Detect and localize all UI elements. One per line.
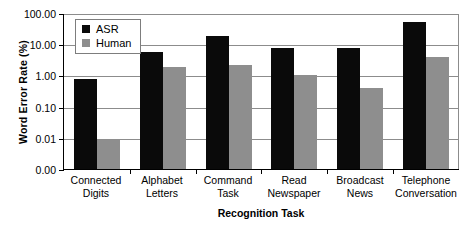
- bar-asr: [271, 48, 294, 169]
- x-axis-tick-label: ReadNewspaper: [261, 174, 327, 206]
- legend-label-asr: ASR: [96, 23, 119, 35]
- x-axis-tick-label: CommandTask: [195, 174, 261, 206]
- x-axis-tick-label: ConnectedDigits: [63, 174, 129, 206]
- y-axis-tick-label: 0.10: [4, 102, 56, 114]
- bar-human: [163, 67, 186, 169]
- legend-swatch-human: [82, 39, 90, 47]
- bar-human: [229, 65, 252, 169]
- y-axis-tick-label: 10.00: [4, 39, 56, 51]
- bar-group: [393, 14, 459, 169]
- y-axis-tick-label: 1.00: [4, 70, 56, 82]
- x-axis-tick-label-line: Newspaper: [261, 187, 327, 200]
- x-axis-tick-label-line: Connected: [63, 174, 129, 187]
- y-axis-tick-mark: [59, 170, 64, 171]
- legend-swatch-asr: [82, 25, 90, 33]
- x-axis-tick-label-line: Broadcast: [327, 174, 393, 187]
- bar-group: [261, 14, 327, 169]
- chart-legend: ASR Human: [75, 19, 141, 54]
- x-axis-tick-label-line: News: [327, 187, 393, 200]
- x-axis-tick-label: AlphabetLetters: [129, 174, 195, 206]
- bar-human: [97, 139, 120, 169]
- word-error-rate-bar-chart: Word Error Rate (%) 100.0010.001.000.100…: [0, 0, 475, 235]
- x-axis-tick-label: BroadcastNews: [327, 174, 393, 206]
- bar-human: [360, 88, 383, 169]
- bar-asr: [206, 36, 229, 169]
- x-axis-tick-label-line: Command: [195, 174, 261, 187]
- x-axis-tick-label-line: Task: [195, 187, 261, 200]
- x-axis-tick-label-line: Read: [261, 174, 327, 187]
- x-axis-tick-label: TelephoneConversation: [393, 174, 459, 206]
- x-axis-tick-labels: ConnectedDigitsAlphabetLettersCommandTas…: [63, 174, 459, 206]
- bar-asr: [403, 22, 426, 169]
- x-axis-tick-label-line: Letters: [129, 187, 195, 200]
- y-axis-tick-label: 100.00: [4, 8, 56, 20]
- bar-human: [426, 57, 449, 169]
- bar-asr: [74, 79, 97, 169]
- legend-label-human: Human: [96, 37, 131, 49]
- legend-item-human: Human: [82, 37, 131, 49]
- bar-group: [196, 14, 262, 169]
- legend-item-asr: ASR: [82, 23, 131, 35]
- x-axis-tick-label-line: Digits: [63, 187, 129, 200]
- bar-asr: [337, 48, 360, 169]
- x-axis-tick-label-line: Conversation: [393, 187, 459, 200]
- bar-asr: [140, 52, 163, 169]
- x-axis-tick-label-line: Telephone: [393, 174, 459, 187]
- bar-group: [327, 14, 393, 169]
- x-axis-tick-label-line: Alphabet: [129, 174, 195, 187]
- y-axis-tick-label: 0.01: [4, 133, 56, 145]
- bar-human: [294, 75, 317, 169]
- x-axis-title: Recognition Task: [63, 207, 459, 219]
- y-axis-tick-label: 0.00: [4, 164, 56, 176]
